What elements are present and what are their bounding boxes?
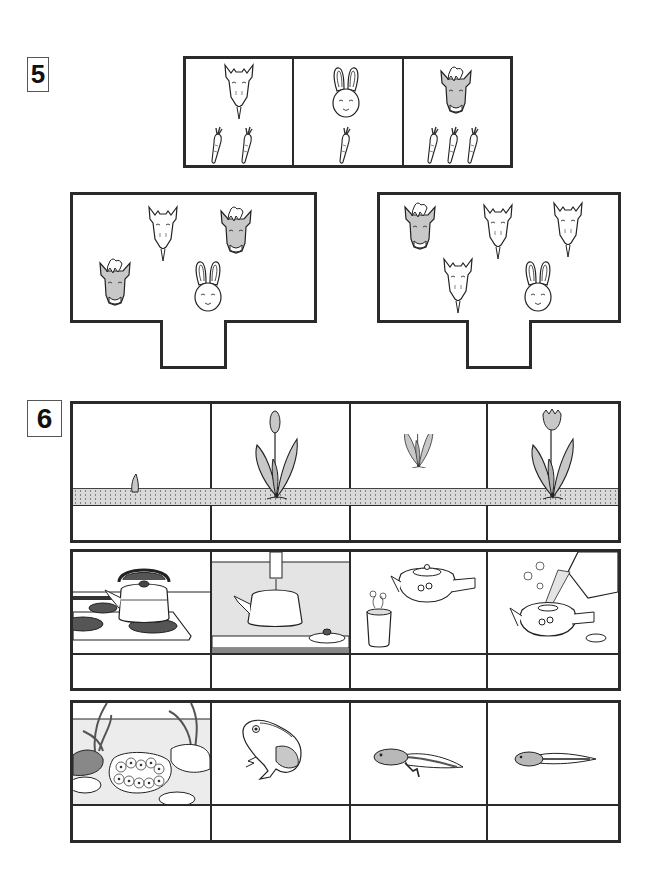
teapot-cup-icon [351,552,486,653]
answer-value [351,506,352,507]
answer-cell[interactable] [212,506,349,540]
answer-value [212,506,213,507]
goat-icon [219,61,259,125]
rabbit-icon [188,259,228,315]
tap-kettle-icon [212,552,349,653]
tulip-leaves-icon [389,434,449,496]
answer-value [73,655,74,656]
tadpole-legs-icon [373,743,465,777]
horse-icon [400,201,440,257]
answer-cell[interactable] [351,655,486,688]
answer-box-right[interactable] [466,320,532,369]
tulip-bloom-icon [523,408,583,500]
image-frog-eggs-in-pond [73,703,210,804]
answer-cell[interactable] [351,506,486,540]
answer-cell[interactable] [488,506,618,540]
goat-icon [143,203,183,267]
kettle-stove-icon [73,552,210,653]
pouring-teapot-icon [488,552,618,653]
image-tadpole-with-legs [351,703,486,804]
horse-icon [436,65,476,121]
sequence-row-frog [70,700,621,843]
image-teapot-and-cup [351,552,486,653]
answer-value [469,320,470,321]
legend-box [183,56,513,168]
frog-icon [240,717,310,783]
horse-icon [216,205,256,261]
image-filling-kettle-at-tap [212,552,349,653]
answer-cell[interactable] [351,806,486,840]
sequence-row-tea [70,549,621,691]
image-tadpole [488,703,618,804]
frog-eggs-icon [73,703,210,804]
tadpole-icon [514,747,598,769]
answer-value [212,655,213,656]
answer-cell[interactable] [488,806,618,840]
image-pouring-water-into-teapot [488,552,618,653]
legend-horse-cell [404,59,510,165]
goat-icon [478,201,518,265]
answer-value [351,655,352,656]
answer-value [163,320,164,321]
image-sprout-in-soil [73,404,210,504]
carrot-icon [338,125,352,165]
answer-cell[interactable] [212,655,349,688]
carrot-icon [446,125,460,165]
answer-value [488,506,489,507]
tulip-bud-icon [247,408,307,500]
answer-cell[interactable] [212,806,349,840]
goat-icon [548,199,588,263]
answer-cell[interactable] [488,655,618,688]
answer-value [488,806,489,807]
answer-value [488,655,489,656]
scene-left [70,192,317,323]
answer-value [351,806,352,807]
rabbit-icon [518,259,558,315]
answer-cell[interactable] [73,506,210,540]
sequence-row-tulip [70,401,621,543]
image-kettle-on-stove [73,552,210,653]
carrot-icon [210,125,224,165]
scene-right [377,192,621,323]
carrot-icon [426,125,440,165]
answer-value [73,506,74,507]
carrot-icon [466,125,480,165]
legend-rabbit-cell [294,59,402,165]
image-tulip-leaves [351,404,486,504]
answer-value [212,806,213,807]
image-tulip-bloom [488,404,618,504]
legend-goat-cell [186,59,292,165]
answer-cell[interactable] [73,655,210,688]
goat-icon [438,255,478,319]
image-adult-frog [212,703,349,804]
answer-value [73,806,74,807]
horse-icon [95,257,135,313]
problem-number-5: 5 [27,57,49,92]
answer-cell[interactable] [73,806,210,840]
sprout-icon [129,472,141,494]
answer-box-left[interactable] [160,320,227,369]
carrot-icon [240,125,254,165]
image-tulip-bud [212,404,349,504]
rabbit-icon [326,65,366,121]
problem-number-6: 6 [27,400,62,437]
